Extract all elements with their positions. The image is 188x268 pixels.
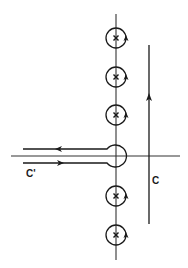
- contour-c: C: [146, 45, 159, 224]
- contour-c-prime-label: C': [26, 168, 36, 179]
- contour-diagram: C C': [0, 0, 188, 268]
- contour-c-prime: C': [23, 145, 126, 179]
- pole-3: [106, 105, 129, 125]
- pole-1: [106, 28, 129, 48]
- pole-4: [106, 186, 129, 206]
- pole-5: [106, 225, 129, 245]
- contour-c-label: C: [152, 175, 159, 186]
- pole-2: [106, 67, 129, 87]
